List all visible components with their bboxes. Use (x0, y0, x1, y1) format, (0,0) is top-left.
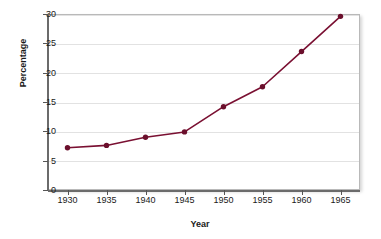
x-tick-mark (68, 190, 69, 195)
chart-figure: Percentage Year 051015202530193019351940… (0, 0, 381, 239)
x-tick-mark (224, 190, 225, 195)
data-point-marker (143, 135, 148, 140)
data-point-marker (299, 49, 304, 54)
x-tick-mark (263, 190, 264, 195)
data-point-marker (182, 129, 187, 134)
x-tick-mark (302, 190, 303, 195)
y-tick-mark (43, 43, 48, 44)
y-tick-label: 30 (16, 9, 56, 19)
x-tick-mark (185, 190, 186, 195)
y-tick-label: 10 (16, 126, 56, 136)
data-point-marker (338, 14, 343, 19)
data-series-line (48, 14, 360, 190)
x-tick-label: 1965 (318, 195, 364, 205)
data-point-marker (260, 84, 265, 89)
x-tick-mark (146, 190, 147, 195)
y-tick-label: 15 (16, 97, 56, 107)
data-point-marker (65, 145, 70, 150)
y-tick-label: 5 (16, 156, 56, 166)
data-point-marker (104, 143, 109, 148)
x-tick-mark (341, 190, 342, 195)
y-tick-mark (43, 190, 48, 191)
y-tick-mark (43, 73, 48, 74)
y-tick-label: 0 (16, 185, 56, 195)
x-axis-title: Year (40, 219, 360, 229)
y-tick-mark (43, 131, 48, 132)
y-tick-label: 25 (16, 38, 56, 48)
y-tick-mark (43, 102, 48, 103)
y-tick-mark (43, 161, 48, 162)
y-tick-mark (43, 14, 48, 15)
x-axis-spine (48, 190, 360, 192)
x-tick-mark (107, 190, 108, 195)
y-tick-label: 20 (16, 68, 56, 78)
data-point-marker (221, 104, 226, 109)
